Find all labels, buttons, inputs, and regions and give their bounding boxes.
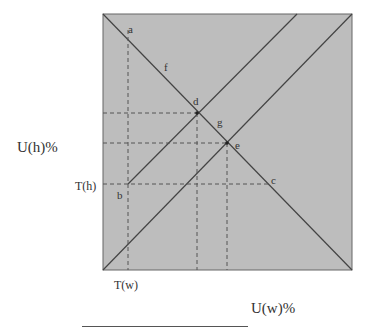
footnote-rule <box>82 326 248 327</box>
point-label-e: e <box>235 140 240 151</box>
point-label-d: d <box>193 96 199 107</box>
x-axis-label: U(w)% <box>251 301 295 316</box>
point-d-marker <box>195 111 199 115</box>
diagram-canvas <box>0 0 367 330</box>
threshold-label-tw: T(w) <box>114 279 138 291</box>
threshold-label-th: T(h) <box>75 180 96 192</box>
point-label-g: g <box>217 117 223 128</box>
point-label-f: f <box>164 62 168 73</box>
point-label-a: a <box>128 24 133 35</box>
y-axis-label: U(h)% <box>17 140 58 155</box>
point-label-b: b <box>117 190 123 201</box>
point-label-c: c <box>271 175 276 186</box>
point-e-marker <box>225 141 229 145</box>
